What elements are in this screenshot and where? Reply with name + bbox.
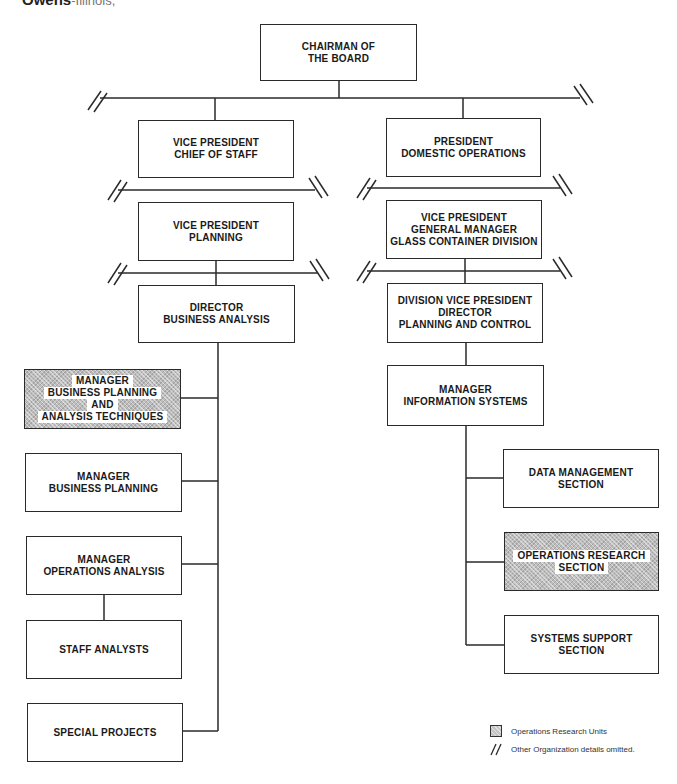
legend-label: Other Organization details omitted. xyxy=(511,745,635,754)
node-mgr-operations-analysis: MANAGER OPERATIONS ANALYSIS xyxy=(26,536,182,595)
node-label-line: MANAGER xyxy=(439,384,492,396)
node-label-line: SECTION xyxy=(559,645,605,657)
node-label-line: SYSTEMS SUPPORT xyxy=(531,633,633,645)
node-label-line: MANAGER xyxy=(77,471,130,483)
node-president-domestic-operations: PRESIDENT DOMESTIC OPERATIONS xyxy=(386,118,541,177)
node-special-projects: SPECIAL PROJECTS xyxy=(27,703,183,762)
node-label-line: VICE PRESIDENT xyxy=(173,220,259,232)
node-label-line: DOMESTIC OPERATIONS xyxy=(401,148,526,160)
node-label-line: BUSINESS PLANNING xyxy=(44,387,162,399)
node-director-business-analysis: DIRECTOR BUSINESS ANALYSIS xyxy=(138,285,295,343)
node-label-line: ANALYSIS TECHNIQUES xyxy=(38,411,168,423)
node-label-line: OPERATIONS RESEARCH xyxy=(513,550,649,562)
legend: Operations Research Units Other Organiza… xyxy=(490,722,635,758)
node-label-line: DIVISION VICE PRESIDENT xyxy=(398,295,533,307)
node-label-line: DATA MANAGEMENT xyxy=(529,467,633,479)
node-label-line: VICE PRESIDENT xyxy=(421,212,507,224)
node-mgr-information-systems: MANAGER INFORMATION SYSTEMS xyxy=(387,365,544,426)
node-chairman-of-the-board: CHAIRMAN OF THE BOARD xyxy=(260,24,417,81)
node-vp-gm-glass-container-division: VICE PRESIDENT GENERAL MANAGER GLASS CON… xyxy=(386,200,542,259)
node-label-line: PLANNING xyxy=(189,232,243,244)
legend-label: Operations Research Units xyxy=(511,727,607,736)
node-label-line: GLASS CONTAINER DIVISION xyxy=(390,236,537,248)
node-label-line: SPECIAL PROJECTS xyxy=(53,727,156,739)
node-data-management-section: DATA MANAGEMENT SECTION xyxy=(503,449,659,508)
node-label-line: INFORMATION SYSTEMS xyxy=(403,396,527,408)
node-label-line: GENERAL MANAGER xyxy=(411,224,517,236)
node-label-line: OPERATIONS ANALYSIS xyxy=(43,566,164,578)
legend-item-operations-research: Operations Research Units xyxy=(490,722,635,740)
node-mgr-business-planning: MANAGER BUSINESS PLANNING xyxy=(25,453,182,512)
node-label-line: AND xyxy=(87,399,117,411)
node-vp-planning: VICE PRESIDENT PLANNING xyxy=(138,202,294,261)
node-label-line: PLANNING AND CONTROL xyxy=(399,319,532,331)
node-systems-support-section: SYSTEMS SUPPORT SECTION xyxy=(504,615,659,674)
node-label-line: BUSINESS PLANNING xyxy=(49,483,159,495)
double-slash-icon xyxy=(490,742,502,756)
node-label-line: DIRECTOR xyxy=(190,302,244,314)
node-label-line: THE BOARD xyxy=(308,53,369,65)
legend-item-details-omitted: Other Organization details omitted. xyxy=(490,740,635,758)
node-mgr-business-planning-analysis-techniques: MANAGER BUSINESS PLANNING AND ANALYSIS T… xyxy=(24,369,181,429)
node-label-line: STAFF ANALYSTS xyxy=(59,644,149,656)
node-label-line: PRESIDENT xyxy=(434,136,493,148)
node-operations-research-section: OPERATIONS RESEARCH SECTION xyxy=(504,532,659,591)
node-label-line: MANAGER xyxy=(72,375,133,387)
node-label-line: SECTION xyxy=(555,562,609,574)
node-label-line: CHAIRMAN OF xyxy=(302,41,375,53)
node-staff-analysts: STAFF ANALYSTS xyxy=(26,620,182,679)
node-label-line: DIRECTOR xyxy=(438,307,492,319)
node-label-line: BUSINESS ANALYSIS xyxy=(163,314,270,326)
node-vp-chief-of-staff: VICE PRESIDENT CHIEF OF STAFF xyxy=(138,120,294,178)
node-division-vp-planning-control: DIVISION VICE PRESIDENT DIRECTOR PLANNIN… xyxy=(387,283,543,343)
node-label-line: CHIEF OF STAFF xyxy=(174,149,258,161)
hatched-square-icon xyxy=(490,725,502,737)
node-label-line: VICE PRESIDENT xyxy=(173,137,259,149)
node-label-line: SECTION xyxy=(558,479,604,491)
node-label-line: MANAGER xyxy=(77,554,130,566)
